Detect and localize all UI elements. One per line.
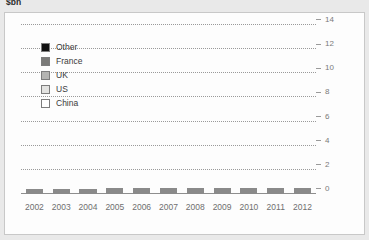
x-axis-tick-label: 2009 bbox=[209, 196, 236, 218]
bar-stack[interactable] bbox=[26, 189, 43, 194]
legend-swatch-icon bbox=[41, 71, 50, 80]
y-axis-tick-label: 2 bbox=[316, 160, 354, 170]
x-axis-tick-label: 2002 bbox=[21, 196, 48, 218]
bar-segment-china[interactable] bbox=[26, 192, 43, 194]
bar-stack[interactable] bbox=[160, 188, 177, 194]
x-axis-tick-label: 2004 bbox=[75, 196, 102, 218]
y-axis-tick-mark bbox=[316, 164, 321, 165]
y-axis-tick-label: 8 bbox=[316, 87, 354, 97]
legend-swatch-icon bbox=[41, 57, 50, 66]
bar-column[interactable] bbox=[182, 25, 209, 194]
legend-swatch-icon bbox=[41, 85, 50, 94]
y-axis-tick-label: 4 bbox=[316, 136, 354, 146]
bar-stack[interactable] bbox=[214, 188, 231, 194]
bar-column[interactable] bbox=[289, 25, 316, 194]
bar-segment-china[interactable] bbox=[240, 192, 257, 194]
y-axis-tick-mark bbox=[316, 188, 321, 189]
x-axis-tick-label: 2010 bbox=[236, 196, 263, 218]
y-axis-tick-mark bbox=[316, 68, 321, 69]
legend-label: UK bbox=[56, 71, 68, 80]
bar-stack[interactable] bbox=[106, 188, 123, 194]
x-axis: 2002200320042005200620072008200920102011… bbox=[21, 196, 316, 218]
legend-label: France bbox=[56, 57, 82, 66]
bar-stack[interactable] bbox=[53, 189, 70, 194]
y-axis-tick-mark bbox=[316, 92, 321, 93]
x-axis-tick-label: 2012 bbox=[289, 196, 316, 218]
bar-segment-china[interactable] bbox=[267, 192, 284, 194]
bar-stack[interactable] bbox=[240, 188, 257, 194]
bar-segment-china[interactable] bbox=[294, 192, 311, 194]
y-axis-tick-label: 6 bbox=[316, 112, 354, 122]
bar-segment-china[interactable] bbox=[106, 192, 123, 194]
legend-label: China bbox=[56, 99, 78, 108]
y-axis-tick-label: 14 bbox=[316, 15, 354, 25]
chart-panel: 02468101214 2002200320042005200620072008… bbox=[4, 12, 365, 235]
legend-item-france[interactable]: France bbox=[41, 55, 82, 68]
bar-stack[interactable] bbox=[187, 188, 204, 194]
bar-segment-china[interactable] bbox=[160, 192, 177, 194]
legend-item-other[interactable]: Other bbox=[41, 41, 82, 54]
x-axis-tick-label: 2008 bbox=[182, 196, 209, 218]
x-axis-tick-label: 2007 bbox=[155, 196, 182, 218]
x-axis-tick-label: 2003 bbox=[48, 196, 75, 218]
y-axis: 02468101214 bbox=[316, 25, 354, 194]
bar-column[interactable] bbox=[128, 25, 155, 194]
legend-label: US bbox=[56, 85, 68, 94]
legend-swatch-icon bbox=[41, 99, 50, 108]
bar-segment-china[interactable] bbox=[187, 192, 204, 194]
bar-segment-china[interactable] bbox=[79, 192, 96, 194]
bar-segment-china[interactable] bbox=[53, 192, 70, 194]
bar-stack[interactable] bbox=[133, 188, 150, 194]
x-axis-tick-label: 2005 bbox=[101, 196, 128, 218]
x-axis-tick-label: 2011 bbox=[262, 196, 289, 218]
legend: OtherFranceUKUSChina bbox=[41, 41, 82, 111]
bar-stack[interactable] bbox=[79, 189, 96, 194]
legend-item-china[interactable]: China bbox=[41, 97, 82, 110]
bar-segment-china[interactable] bbox=[214, 192, 231, 194]
bar-column[interactable] bbox=[209, 25, 236, 194]
y-axis-tick-label: 0 bbox=[316, 184, 354, 194]
y-axis-tick-mark bbox=[316, 44, 321, 45]
plot-area: 02468101214 2002200320042005200620072008… bbox=[21, 25, 354, 224]
x-axis-tick-label: 2006 bbox=[128, 196, 155, 218]
bar-stack[interactable] bbox=[267, 188, 284, 194]
bar-stack[interactable] bbox=[294, 188, 311, 194]
legend-item-uk[interactable]: UK bbox=[41, 69, 82, 82]
y-axis-tick-label: 12 bbox=[316, 39, 354, 49]
bar-column[interactable] bbox=[155, 25, 182, 194]
bar-segment-china[interactable] bbox=[133, 192, 150, 194]
bar-column[interactable] bbox=[236, 25, 263, 194]
legend-item-us[interactable]: US bbox=[41, 83, 82, 96]
y-axis-tick-label: 10 bbox=[316, 63, 354, 73]
chart-title: $bn bbox=[6, 0, 21, 7]
legend-swatch-icon bbox=[41, 43, 50, 52]
y-axis-tick-mark bbox=[316, 140, 321, 141]
y-axis-tick-mark bbox=[316, 19, 321, 20]
legend-label: Other bbox=[56, 43, 77, 52]
bar-column[interactable] bbox=[262, 25, 289, 194]
bar-column[interactable] bbox=[101, 25, 128, 194]
y-axis-tick-mark bbox=[316, 116, 321, 117]
